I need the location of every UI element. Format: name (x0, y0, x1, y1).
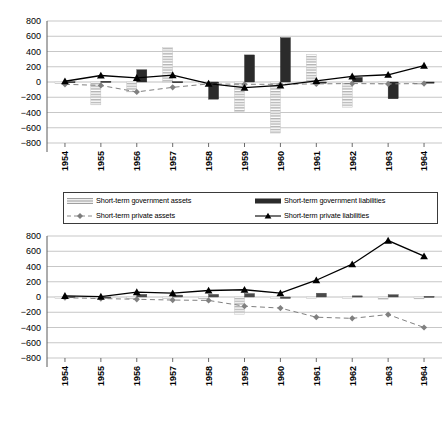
bar (173, 82, 183, 83)
chart-svg-short-term: −800−600−400−200020040060080019541955195… (0, 10, 447, 185)
x-axis-tick-label: 1961 (312, 366, 322, 386)
legend-item-short-gov-assets: Short-term government assets (64, 196, 252, 206)
x-axis-tick-label: 1964 (419, 151, 429, 171)
data-point-marker (348, 260, 356, 267)
y-axis-tick-label: 400 (26, 262, 41, 272)
x-axis-tick-label: 1963 (384, 366, 394, 386)
plot-area-long-term: −800−600−400−200020040060080019541955195… (0, 225, 447, 400)
x-axis-tick-label: 1958 (204, 366, 214, 386)
bar (270, 82, 280, 133)
bar (101, 81, 111, 82)
bar (306, 55, 316, 82)
bar (280, 38, 290, 82)
y-axis-tick-label: −600 (21, 338, 41, 348)
x-axis-tick-label: 1957 (168, 151, 178, 171)
bar (424, 296, 434, 297)
legend-short-term: Short-term government assets Short-term … (63, 192, 438, 224)
legend-label: Short-term government assets (96, 197, 191, 204)
x-axis-tick-label: 1964 (419, 366, 429, 386)
y-axis-tick-label: 200 (26, 277, 41, 287)
bar (270, 297, 280, 298)
bar (209, 294, 219, 297)
bar (280, 297, 290, 299)
x-axis-tick-label: 1962 (348, 151, 358, 171)
chart-panel-long-term: −800−600−400−200020040060080019541955195… (0, 225, 447, 443)
x-axis-tick-label: 1955 (96, 366, 106, 386)
x-axis-tick-label: 1954 (60, 366, 70, 386)
x-axis-tick-label: 1962 (348, 366, 358, 386)
x-axis-tick-label: 1956 (132, 151, 142, 171)
bar (352, 296, 362, 297)
bar (199, 297, 209, 299)
chart-svg-long-term: −800−600−400−200020040060080019541955195… (0, 225, 447, 400)
x-axis-tick-label: 1958 (204, 151, 214, 171)
y-axis-tick-label: −800 (21, 138, 41, 148)
data-point-marker (313, 314, 319, 320)
data-point-marker (421, 80, 427, 86)
figure-root: −800−600−400−200020040060080019541955195… (0, 0, 447, 448)
chart-panel-short-term: −800−600−400−200020040060080019541955195… (0, 10, 447, 215)
solid-dark-bar-icon (255, 196, 281, 206)
y-axis-tick-label: 800 (26, 231, 41, 241)
y-axis-tick-label: −400 (21, 108, 41, 118)
line-series-group (61, 237, 428, 331)
legend-label: Short-term private liabilities (284, 212, 369, 219)
data-point-marker (349, 315, 355, 321)
y-axis-tick-label: 600 (26, 31, 41, 41)
x-axis-ticks: 1954195519561957195819591960196119621963… (60, 358, 429, 386)
bar (388, 295, 398, 297)
y-axis-tick-label: −800 (21, 353, 41, 363)
bar (245, 55, 255, 82)
dashed-line-diamond-icon (67, 211, 93, 221)
x-axis-tick-label: 1956 (132, 366, 142, 386)
bar (306, 297, 316, 298)
y-axis-tick-label: 0 (36, 77, 41, 87)
legend-label: Short-term private assets (96, 212, 175, 219)
bar (378, 297, 388, 299)
bar (316, 293, 326, 297)
y-axis-tick-label: 0 (36, 292, 41, 302)
y-axis-tick-label: 400 (26, 47, 41, 57)
x-axis-tick-label: 1963 (384, 151, 394, 171)
bar (245, 294, 255, 297)
x-axis-tick-label: 1955 (96, 151, 106, 171)
y-axis-tick-label: 200 (26, 62, 41, 72)
legend-item-short-priv-liabilities: Short-term private liabilities (252, 211, 439, 221)
data-point-marker (170, 84, 176, 90)
hatched-light-bar-icon (67, 196, 93, 206)
x-axis-tick-label: 1959 (240, 366, 250, 386)
bar (414, 297, 424, 299)
legend-label: Short-term government liabilities (284, 197, 385, 204)
y-axis-tick-label: 800 (26, 16, 41, 26)
x-axis-tick-label: 1960 (276, 366, 286, 386)
x-axis-tick-label: 1954 (60, 151, 70, 171)
y-axis-tick-label: −200 (21, 92, 41, 102)
bar (163, 297, 173, 299)
plot-area-short-term: −800−600−400−200020040060080019541955195… (0, 10, 447, 185)
x-axis-ticks: 1954195519561957195819591960196119621963… (60, 143, 429, 171)
legend-item-short-priv-assets: Short-term private assets (64, 211, 252, 221)
solid-line-triangle-icon (255, 211, 281, 221)
data-point-marker (384, 237, 392, 244)
x-axis-tick-label: 1960 (276, 151, 286, 171)
data-point-marker (420, 252, 428, 259)
bar (342, 297, 352, 298)
x-axis-tick-label: 1961 (312, 151, 322, 171)
data-point-marker (421, 324, 427, 330)
y-axis-tick-label: −400 (21, 323, 41, 333)
y-axis-tick-label: −200 (21, 307, 41, 317)
x-axis-tick-label: 1959 (240, 151, 250, 171)
bar (342, 82, 352, 107)
data-point-marker (312, 276, 320, 283)
data-point-marker (277, 305, 283, 311)
y-axis-tick-label: 600 (26, 246, 41, 256)
y-axis-tick-label: −600 (21, 123, 41, 133)
x-axis-tick-label: 1957 (168, 366, 178, 386)
legend-item-short-gov-liabilities: Short-term government liabilities (252, 196, 439, 206)
data-point-marker (420, 62, 428, 69)
